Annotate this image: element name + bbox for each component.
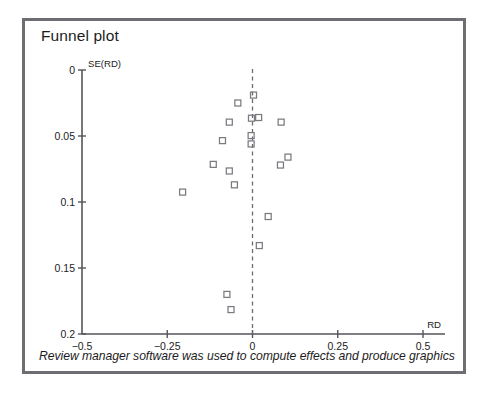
data-point-marker: [226, 168, 232, 174]
data-point-marker: [285, 154, 291, 160]
y-axis-title: SE(RD): [88, 58, 121, 69]
data-point-marker: [226, 119, 232, 125]
data-point-marker: [251, 92, 257, 98]
figure-frame: Funnel plot 00.050.10.150.2−0.5−0.2500.2…: [22, 18, 466, 374]
y-axis-tick-label: 0.15: [55, 262, 76, 274]
y-axis-tick-label: 0.05: [55, 130, 76, 142]
data-point-marker: [256, 243, 262, 249]
plot-axes: [78, 70, 445, 338]
y-axis-tick-label: 0.2: [60, 328, 75, 340]
data-point-marker: [210, 161, 216, 167]
funnel-plot-svg: 00.050.10.150.2−0.5−0.2500.250.5SE(RD)RD: [25, 21, 469, 377]
data-point-marker: [277, 162, 283, 168]
data-point-marker: [248, 115, 254, 121]
data-point-group: [180, 92, 291, 312]
data-point-marker: [278, 119, 284, 125]
data-point-marker: [235, 100, 241, 106]
y-axis-tick-label: 0: [69, 64, 75, 76]
y-axis-tick-label: 0.1: [60, 196, 75, 208]
data-point-marker: [265, 214, 271, 220]
data-point-marker: [224, 291, 230, 297]
data-point-marker: [180, 189, 186, 195]
funnel-plot-canvas: 00.050.10.150.2−0.5−0.2500.250.5SE(RD)RD: [25, 21, 469, 377]
x-axis-title: RD: [427, 319, 441, 330]
axis-label-group: 00.050.10.150.2−0.5−0.2500.250.5SE(RD)RD: [55, 58, 442, 352]
data-point-marker: [228, 307, 234, 313]
data-point-marker: [231, 182, 237, 188]
data-point-marker: [248, 133, 254, 139]
data-point-marker: [256, 115, 262, 121]
figure-caption: Review manager software was used to comp…: [39, 349, 455, 363]
data-point-marker: [248, 141, 254, 147]
data-point-marker: [219, 138, 225, 144]
